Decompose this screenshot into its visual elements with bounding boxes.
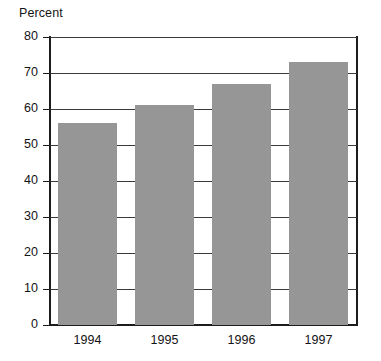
bar-1994	[58, 123, 117, 325]
y-tick-label-60: 60	[24, 102, 38, 114]
y-tick-label-40: 40	[24, 174, 38, 186]
x-tick-label-1996: 1996	[203, 333, 280, 347]
y-tick-mark-70	[43, 73, 50, 74]
y-tick-mark-80	[43, 37, 50, 38]
y-tick-label-70: 70	[24, 66, 38, 78]
y-tick-mark-60	[43, 109, 50, 110]
y-axis-caption: Percent	[19, 6, 63, 20]
y-tick-label-30: 30	[24, 210, 38, 222]
y-tick-mark-20	[43, 253, 50, 254]
bar-1995	[135, 105, 194, 325]
y-tick-label-20: 20	[24, 246, 38, 258]
y-tick-mark-10	[43, 289, 50, 290]
y-tick-mark-50	[43, 145, 50, 146]
y-tick-label-10: 10	[24, 282, 38, 294]
bar-1997	[289, 62, 348, 325]
y-tick-label-0: 0	[31, 318, 38, 330]
bar-1996	[212, 84, 271, 325]
bar-chart: Percent 01020304050607080 19941995199619…	[0, 0, 381, 361]
x-tick-label-1997: 1997	[280, 333, 357, 347]
y-tick-mark-30	[43, 217, 50, 218]
gridline-80	[49, 37, 357, 38]
y-tick-mark-40	[43, 181, 50, 182]
x-tick-label-1994: 1994	[49, 333, 126, 347]
y-tick-label-50: 50	[24, 138, 38, 150]
y-tick-mark-0	[43, 325, 50, 326]
x-tick-label-1995: 1995	[126, 333, 203, 347]
y-tick-label-80: 80	[24, 30, 38, 42]
